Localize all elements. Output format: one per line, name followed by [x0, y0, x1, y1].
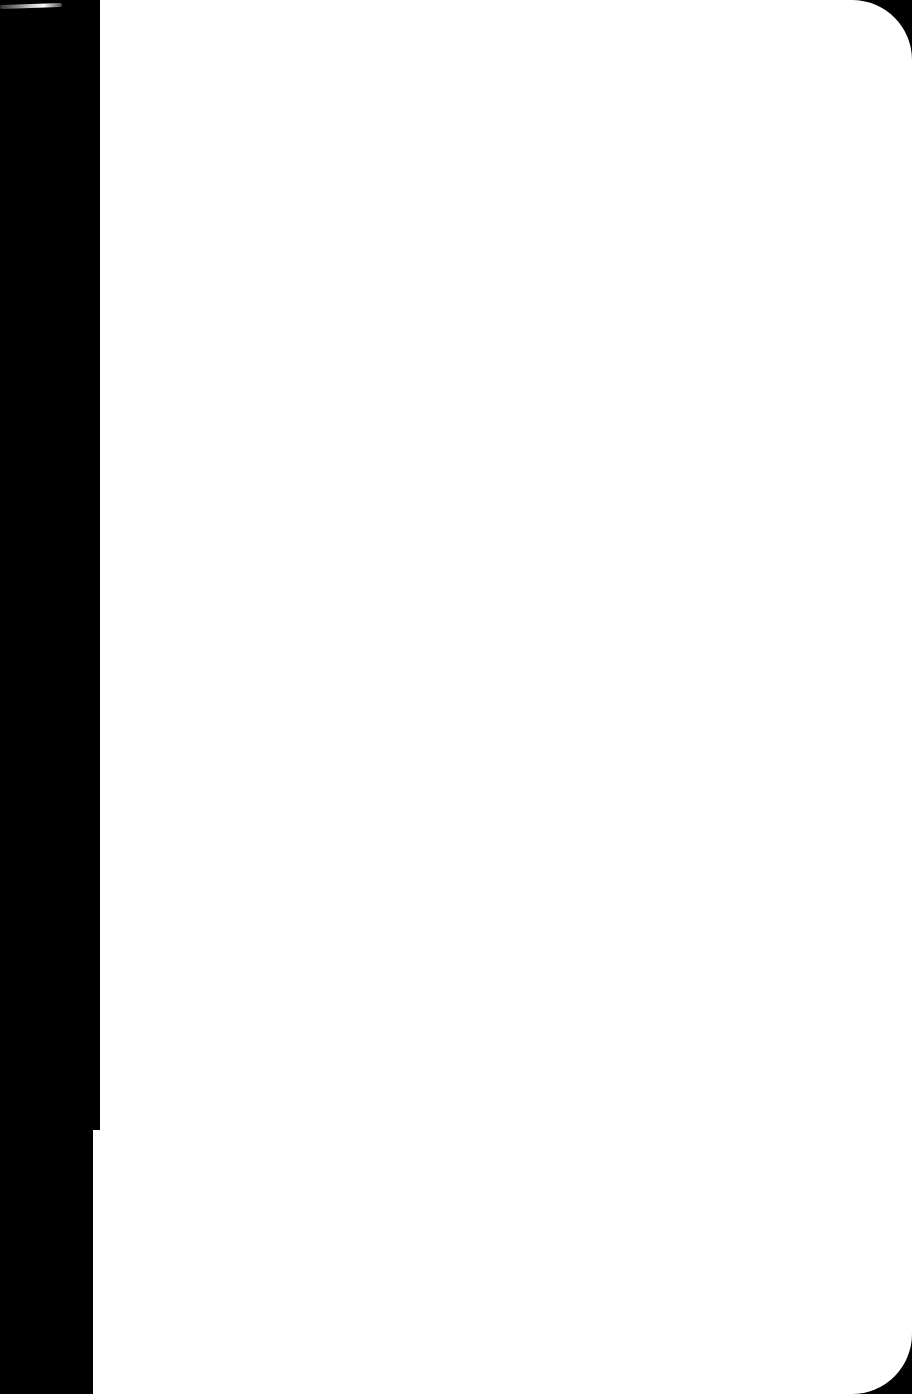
- blank-page: [100, 0, 912, 1394]
- edge-highlight: [0, 3, 62, 9]
